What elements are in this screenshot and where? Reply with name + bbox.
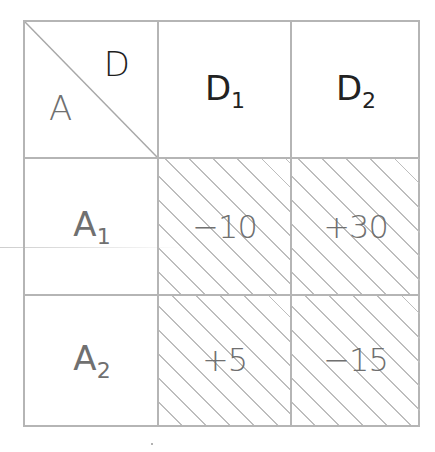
column-header-label: D2 [336,68,375,113]
column-header-d2: D2 [291,22,420,158]
row-header-base: A [73,338,95,378]
row-header-a1: A1 [25,158,158,295]
value-cell-a1-d2: +30 [291,158,420,295]
cell-value: −15 [323,341,388,379]
row-header-a2: A2 [25,295,158,425]
diagonal-divider-icon [25,22,158,158]
row-header-subscript: 2 [97,358,110,383]
row-header-base: A [73,204,95,244]
value-cell-a2-d2: −15 [291,295,420,425]
row-header-subscript: 1 [97,224,110,249]
column-header-d1: D1 [158,22,291,158]
column-dimension-label: D [104,44,130,84]
grid-divider-horizontal [25,157,418,159]
column-header-base: D [336,68,361,108]
value-cell-a2-d1: +5 [158,295,291,425]
grid-divider-vertical [157,22,159,425]
column-header-label: D1 [205,68,244,113]
scan-artifact-dot [151,443,153,445]
column-header-subscript: 1 [231,88,244,113]
column-header-base: D [205,68,230,108]
column-header-subscript: 2 [362,88,375,113]
grid-divider-vertical [290,22,292,425]
grid-divider-horizontal [25,294,418,296]
row-header-label: A1 [73,204,109,249]
cell-value: −10 [192,208,257,246]
row-header-label: A2 [73,338,109,383]
row-dimension-label: A [49,88,72,128]
cell-value: +30 [323,208,388,246]
cell-value: +5 [202,341,247,379]
corner-header-cell: D A [25,22,158,158]
value-cell-a1-d1: −10 [158,158,291,295]
payoff-matrix-table: D A D1 D2 A1 −10 +30 A2 +5 −15 [23,20,420,427]
